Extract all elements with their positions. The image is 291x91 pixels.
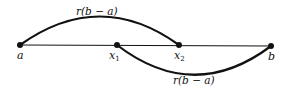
diagram-canvas: a x1 x2 b r(b − a) r(b − a) — [0, 0, 291, 91]
upper-arc — [20, 17, 179, 46]
point-x2 — [176, 42, 182, 48]
label-x1: x1 — [109, 49, 120, 63]
golden-section-diagram: a x1 x2 b r(b − a) r(b − a) — [0, 0, 291, 91]
point-x1 — [114, 42, 120, 48]
label-b: b — [268, 50, 275, 63]
label-a: a — [17, 49, 24, 62]
label-x2: x2 — [174, 49, 185, 63]
lower-arc — [117, 45, 271, 75]
point-a — [17, 42, 23, 48]
lower-arc-label: r(b − a) — [173, 74, 215, 86]
point-b — [268, 43, 274, 49]
upper-arc-label: r(b − a) — [76, 5, 118, 17]
interval-line — [20, 45, 271, 46]
